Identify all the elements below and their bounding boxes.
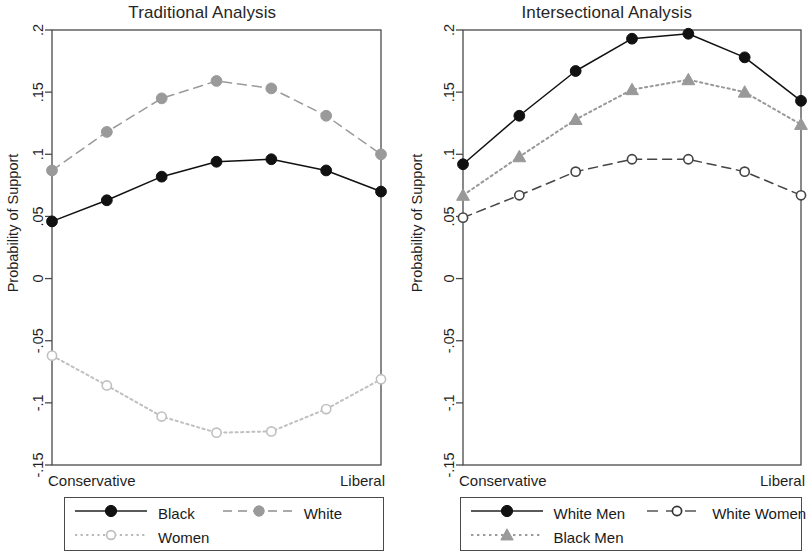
y-axis-tick-label: -.15 <box>30 453 46 478</box>
series-line-white-men <box>463 34 801 165</box>
data-point-white-women <box>796 191 805 200</box>
data-point-white-women <box>627 155 636 164</box>
data-point-white <box>211 76 222 87</box>
series-line-white-women <box>463 159 801 217</box>
y-axis-tick-label: 0 <box>440 275 456 283</box>
data-point-black <box>321 165 332 176</box>
plot-frame <box>52 30 381 465</box>
data-point-black-men <box>456 189 469 200</box>
plot-area-traditional: .2.15.1.050-.05-.1-.15ConservativeLibera… <box>0 0 405 556</box>
data-point-black-men <box>681 73 694 84</box>
y-axis-tick-label: -.15 <box>440 453 456 478</box>
y-axis-tick-label: .1 <box>440 148 456 160</box>
data-point-black <box>47 216 58 227</box>
y-axis-tick-label: -.1 <box>30 394 46 411</box>
data-point-women <box>102 381 111 390</box>
legend-item-black[interactable]: Black <box>73 501 195 525</box>
data-point-white-women <box>514 191 523 200</box>
y-axis-tick-label: .1 <box>30 148 46 160</box>
legend-item-white[interactable]: White <box>221 501 342 525</box>
x-axis-label-right: Liberal <box>340 472 385 489</box>
data-point-black <box>211 156 222 167</box>
x-axis-label-right: Liberal <box>759 472 804 489</box>
data-point-white-men <box>513 110 524 121</box>
legend-intersectional: White MenWhite WomenBlack Men <box>460 497 802 551</box>
legend-item-white-men[interactable]: White Men <box>469 501 626 525</box>
data-point-white <box>47 165 58 176</box>
legend-row: Women <box>65 525 383 549</box>
legend-key-wrap <box>73 525 149 549</box>
legend-item-women[interactable]: Women <box>73 525 209 549</box>
y-axis-tick-label: 0 <box>30 275 46 283</box>
y-axis-tick-label: -.1 <box>440 394 456 411</box>
legend-row: White MenWhite Women <box>461 501 801 525</box>
legend-key-wrap <box>221 501 295 525</box>
legend-label: White Women <box>703 505 806 522</box>
data-point-white-men <box>457 159 468 170</box>
legend-label: White <box>295 505 342 522</box>
y-axis-tick-label: .05 <box>30 206 46 226</box>
legend-row: BlackWhite <box>65 501 383 525</box>
legend-key-dotted-gray-triangle <box>469 525 545 545</box>
data-point-white <box>156 93 167 104</box>
legend-key-wrap <box>469 501 545 525</box>
data-point-white <box>101 127 112 138</box>
legend-item-white-women[interactable]: White Women <box>639 501 806 525</box>
data-point-white <box>321 110 332 121</box>
legend-label: Women <box>149 529 209 546</box>
legend-key-solid-filled-black-circle <box>73 501 149 521</box>
data-point-white <box>266 83 277 94</box>
panel-intersectional-analysis: Intersectional Analysis Probability of S… <box>405 0 809 556</box>
legend-key-wrap <box>469 525 545 549</box>
data-point-black-men <box>794 118 807 129</box>
data-point-white-women <box>571 167 580 176</box>
data-point-white-women <box>740 167 749 176</box>
y-axis-tick-label: .05 <box>440 206 456 226</box>
plot-svg-intersectional: .2.15.1.050-.05-.1-.15ConservativeLibera… <box>405 0 809 500</box>
data-point-black-men <box>569 113 582 124</box>
x-axis-label-left: Conservative <box>48 472 136 489</box>
legend-label: Black Men <box>545 529 624 546</box>
legend-key-dashed-open-circle <box>639 501 703 521</box>
legend-label: Black <box>149 505 195 522</box>
data-point-white-men <box>739 52 750 63</box>
data-point-white-women <box>458 213 467 222</box>
legend-key-wrap <box>639 501 703 525</box>
legend-key-wrap <box>73 501 149 525</box>
plot-svg-traditional: .2.15.1.050-.05-.1-.15ConservativeLibera… <box>0 0 404 500</box>
data-point-black-men <box>512 150 525 161</box>
y-axis-tick-label: -.05 <box>440 328 456 353</box>
panel-traditional-analysis: Traditional Analysis Probability of Supp… <box>0 0 405 556</box>
data-point-white-men <box>626 33 637 44</box>
data-point-white-women <box>683 155 692 164</box>
data-point-women <box>376 375 385 384</box>
data-point-women <box>212 428 221 437</box>
data-point-white-men <box>682 28 693 39</box>
legend-label: White Men <box>545 505 626 522</box>
y-axis-tick-label: .2 <box>30 24 46 36</box>
y-axis-tick-label: -.05 <box>30 328 46 353</box>
legend-key-dashed-filled-gray-circle <box>221 501 295 521</box>
y-axis-tick-label: .15 <box>30 82 46 102</box>
legend-row: Black Men <box>461 525 801 549</box>
legend-item-black-men[interactable]: Black Men <box>469 525 624 549</box>
data-point-women <box>47 351 56 360</box>
legend-key-solid-filled-black-circle <box>469 501 545 521</box>
data-point-black <box>101 195 112 206</box>
x-axis-label-left: Conservative <box>459 472 547 489</box>
data-point-women <box>322 404 331 413</box>
data-point-white-men <box>570 66 581 77</box>
data-point-white <box>376 149 387 160</box>
legend-key-dotted-open-lightgray-circle <box>73 525 149 545</box>
data-point-women <box>157 412 166 421</box>
legend-traditional: BlackWhiteWomen <box>64 497 384 551</box>
figure-two-panel-chart: Traditional Analysis Probability of Supp… <box>0 0 809 556</box>
plot-area-intersectional: .2.15.1.050-.05-.1-.15ConservativeLibera… <box>405 0 809 556</box>
data-point-black <box>376 186 387 197</box>
data-point-black <box>156 171 167 182</box>
y-axis-tick-label: .15 <box>440 82 456 102</box>
series-line-women <box>52 356 381 433</box>
data-point-white-men <box>795 95 806 106</box>
data-point-women <box>267 427 276 436</box>
y-axis-tick-label: .2 <box>440 24 456 36</box>
